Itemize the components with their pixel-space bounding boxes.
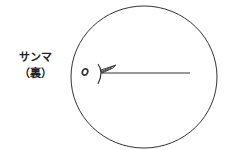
gill-arc <box>98 64 101 84</box>
fish-eye-icon <box>81 68 88 76</box>
plate-outline <box>71 6 217 148</box>
fish-icon <box>81 64 190 84</box>
pectoral-fin-icon <box>101 65 116 73</box>
fish-diagram <box>0 0 225 150</box>
